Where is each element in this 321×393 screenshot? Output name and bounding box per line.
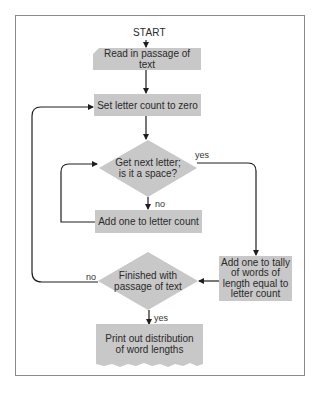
node-add-tally: Add one to tally of words of length equa… [219,256,292,301]
edge-label-space-no: no [155,199,165,209]
decision-finished-line2: passage of text [114,281,182,292]
edge-label-finished-yes: yes [154,313,168,323]
decision-get-next-letter-line2: is it a space? [119,168,177,179]
node-set-letter-count: Set letter count to zero [94,94,201,116]
decision-get-next-letter: Get next letter; is it a space? [108,152,188,184]
decision-get-next-letter-line1: Get next letter; [115,157,181,168]
node-print-distribution: Print out distribution of word lengths [98,327,201,361]
edge-label-space-yes: yes [195,150,209,160]
edge-label-finished-no: no [86,272,96,282]
node-add-letter-count: Add one to letter count [95,210,202,233]
node-read-passage: Read in passage of text [93,48,201,70]
decision-finished: Finished with passage of text [108,266,188,296]
decision-finished-line1: Finished with [119,270,177,281]
start-label: START [133,27,166,38]
